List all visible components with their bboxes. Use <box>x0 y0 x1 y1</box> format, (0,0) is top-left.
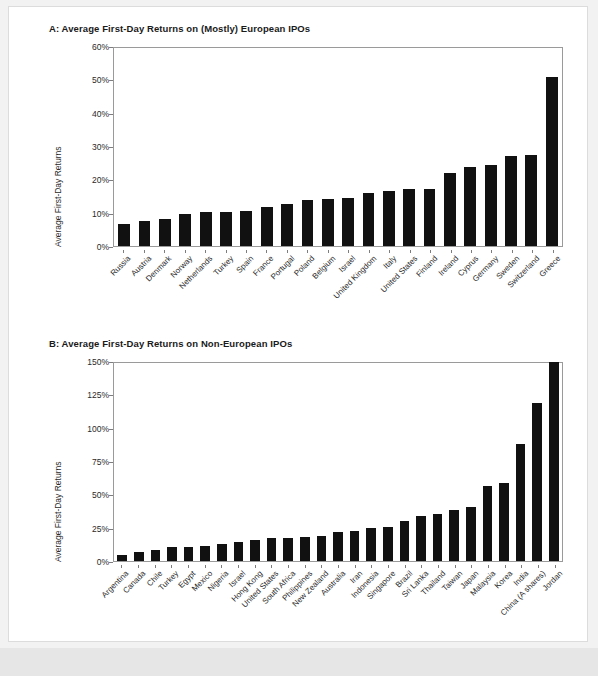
y-tick-label: 20% <box>75 175 109 185</box>
bar-item <box>318 48 338 246</box>
x-tick-mark <box>287 250 288 253</box>
bar-poland <box>302 200 314 246</box>
bar-item <box>197 363 214 561</box>
x-tick-mark <box>328 250 329 253</box>
bar-item <box>236 48 256 246</box>
panel-b-plot-area <box>113 362 563 562</box>
bar-item <box>131 363 148 561</box>
x-tick-mark <box>471 565 472 568</box>
bar-austria <box>139 221 151 246</box>
page-root: A: Average First-Day Returns on (Mostly)… <box>0 0 598 676</box>
bar-item <box>280 363 297 561</box>
x-tick-mark <box>144 250 145 253</box>
bar-item <box>363 363 380 561</box>
bar-egypt <box>184 547 194 561</box>
bar-netherlands <box>200 212 212 246</box>
bar-belgium <box>322 199 334 246</box>
bar-item <box>399 48 419 246</box>
bar-item <box>496 363 513 561</box>
bar-taiwan <box>449 510 459 561</box>
bar-denmark <box>159 219 171 246</box>
x-tick-mark <box>505 565 506 568</box>
bar-cyprus <box>464 167 476 246</box>
bar-turkey <box>167 547 177 561</box>
bar-item <box>263 363 280 561</box>
y-tick-mark <box>109 562 113 563</box>
panel-b-y-axis-title: Average First-Day Returns <box>53 462 63 562</box>
bar-canada <box>134 552 144 561</box>
x-tick-mark <box>512 250 513 253</box>
x-tick-mark <box>451 250 452 253</box>
bar-ireland <box>444 173 456 246</box>
x-tick-mark <box>205 565 206 568</box>
bar-item <box>313 363 330 561</box>
bar-item <box>413 363 430 561</box>
bar-item <box>114 48 134 246</box>
x-tick-mark <box>471 250 472 253</box>
bar-item <box>230 363 247 561</box>
x-tick-mark <box>532 250 533 253</box>
bar-indonesia <box>366 528 376 561</box>
bar-greece <box>546 77 558 246</box>
x-tick-mark <box>271 565 272 568</box>
bar-item <box>164 363 181 561</box>
bar-hong-kong <box>250 540 260 561</box>
bar-item <box>247 363 264 561</box>
bar-philippines <box>300 537 310 561</box>
bar-china-a-shares <box>532 403 542 561</box>
bar-item <box>297 48 317 246</box>
y-tick-label: 60% <box>75 42 109 52</box>
x-tick-mark <box>348 250 349 253</box>
x-tick-mark <box>521 565 522 568</box>
x-tick-mark <box>371 565 372 568</box>
y-tick-label: 40% <box>75 109 109 119</box>
y-tick-mark <box>109 247 113 248</box>
bar-item <box>542 48 562 246</box>
y-tick-label: 125% <box>75 390 109 400</box>
bar-united-states <box>403 189 415 246</box>
x-tick-mark <box>188 565 189 568</box>
bar-item <box>297 363 314 561</box>
bar-item <box>214 363 231 561</box>
bar-new-zealand <box>317 536 327 561</box>
panel-a-bars <box>114 48 562 246</box>
bar-israel <box>342 198 354 246</box>
bar-item <box>521 48 541 246</box>
bar-australia <box>333 532 343 561</box>
panel-b-title: B: Average First-Day Returns on Non-Euro… <box>49 338 292 349</box>
x-tick-mark <box>410 250 411 253</box>
x-tick-mark <box>421 565 422 568</box>
bar-item <box>440 48 460 246</box>
page-bottom-strip <box>0 648 598 676</box>
x-tick-mark <box>123 250 124 253</box>
bar-item <box>396 363 413 561</box>
bar-portugal <box>281 204 293 246</box>
y-tick-label: 75% <box>75 457 109 467</box>
x-tick-mark <box>226 250 227 253</box>
bar-india <box>516 444 526 561</box>
bar-item <box>195 48 215 246</box>
bar-item <box>446 363 463 561</box>
bar-item <box>147 363 164 561</box>
panel-a-plot-area <box>113 47 563 247</box>
y-tick-label: 30% <box>75 142 109 152</box>
x-tick-mark <box>430 250 431 253</box>
bar-argentina <box>117 555 127 561</box>
bar-turkey <box>220 212 232 246</box>
bar-south-africa <box>283 538 293 561</box>
x-tick-mark <box>305 565 306 568</box>
x-tick-mark <box>388 565 389 568</box>
y-tick-label: 0% <box>75 557 109 567</box>
x-tick-mark <box>538 565 539 568</box>
bar-item <box>155 48 175 246</box>
bar-item <box>338 48 358 246</box>
bar-item <box>462 363 479 561</box>
bar-mexico <box>200 546 210 561</box>
x-tick-mark <box>553 250 554 253</box>
bar-united-kingdom <box>363 193 375 246</box>
x-tick-mark <box>491 250 492 253</box>
x-tick-mark <box>355 565 356 568</box>
bar-france <box>261 207 273 246</box>
bar-item <box>480 48 500 246</box>
figure-sheet: A: Average First-Day Returns on (Mostly)… <box>8 6 588 642</box>
